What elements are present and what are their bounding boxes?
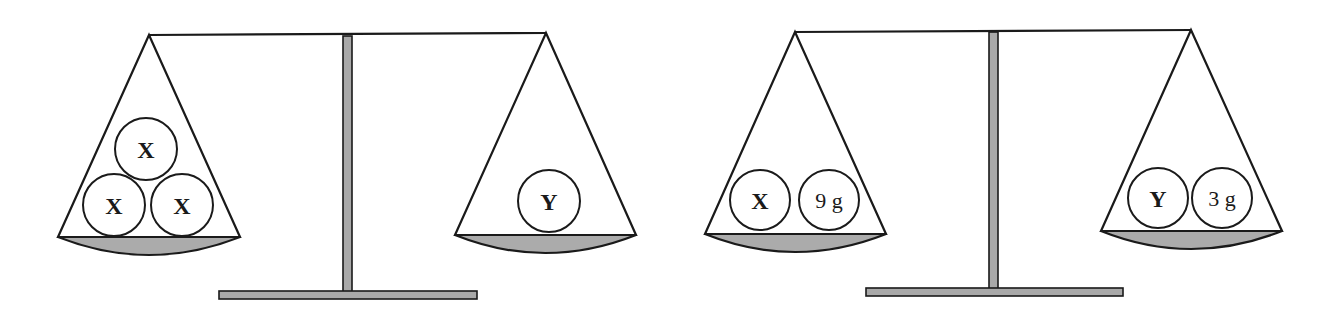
weight-x: X bbox=[151, 174, 213, 236]
weight-label: Y bbox=[540, 189, 557, 215]
weight-y: Y bbox=[1128, 168, 1188, 228]
scale-2-pole bbox=[989, 32, 998, 289]
scale-2-base bbox=[866, 288, 1123, 296]
weight-3g: 3 g bbox=[1192, 168, 1252, 228]
weight-9g: 9 g bbox=[799, 170, 859, 230]
scale-1-base bbox=[219, 291, 477, 299]
scale-2-left-pan: X 9 g bbox=[705, 32, 886, 252]
weight-label: 3 g bbox=[1208, 186, 1236, 211]
scale-1: X X X Y bbox=[58, 33, 636, 299]
weight-label: X bbox=[173, 193, 191, 219]
scale-1-pole bbox=[343, 36, 352, 292]
balance-scales-diagram: X X X Y bbox=[0, 0, 1328, 313]
scale-2: X 9 g Y 3 g bbox=[705, 30, 1282, 296]
weight-y: Y bbox=[518, 170, 580, 232]
weight-label: X bbox=[751, 188, 769, 214]
scale-1-right-pan: Y bbox=[455, 33, 636, 253]
left-pan-bowl bbox=[705, 234, 886, 252]
weight-x: X bbox=[730, 170, 790, 230]
weight-label: X bbox=[105, 193, 123, 219]
weight-label: 9 g bbox=[815, 188, 843, 213]
scale-2-beam bbox=[795, 30, 1191, 32]
weight-label: X bbox=[137, 137, 155, 163]
scale-2-right-pan: Y 3 g bbox=[1101, 30, 1282, 249]
right-pan-bowl bbox=[1101, 231, 1282, 249]
right-pan-bowl bbox=[455, 235, 636, 253]
weight-x: X bbox=[115, 118, 177, 180]
scale-1-beam bbox=[149, 33, 546, 35]
left-pan-bowl bbox=[58, 237, 240, 255]
weight-label: Y bbox=[1149, 186, 1166, 212]
weight-x: X bbox=[83, 174, 145, 236]
scale-1-left-pan: X X X bbox=[58, 35, 240, 255]
